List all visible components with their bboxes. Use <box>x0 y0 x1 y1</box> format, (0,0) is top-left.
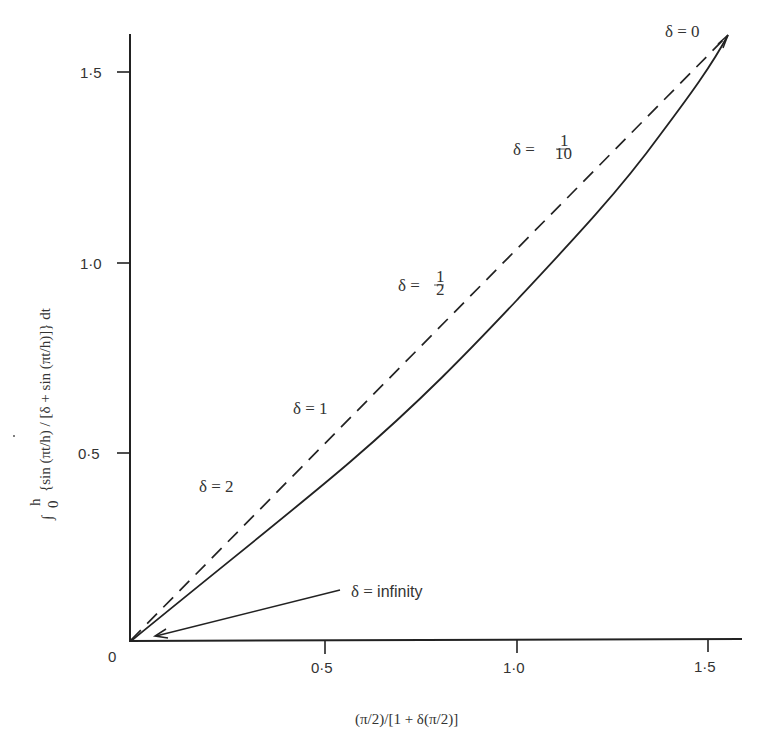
infinity-pointer-arrow <box>156 590 340 636</box>
arrowhead-end <box>718 35 728 48</box>
integral-lower-limit: 0 <box>45 501 61 509</box>
integral-upper-limit: h <box>27 498 43 506</box>
y-tick-label: 1·0 <box>80 255 102 272</box>
annotation-delta-infinity: δ = infinity <box>351 582 422 601</box>
y-axis-title: {sin (πt/h) / [δ + sin (πt/h)]} dt <box>37 307 54 492</box>
x-tick-label: 0·5 <box>311 659 333 676</box>
y-axis-title-group: ∫ h 0 {sin (πt/h) / [δ + sin (πt/h)]} dt <box>27 307 61 521</box>
chart-canvas: 1·5 1·0 0·5 0 0·5 1·0 1·5 δ = 0 δ = 1 10… <box>0 0 777 750</box>
x-tick-label: 1·0 <box>503 659 525 676</box>
y-tick-label: 1·5 <box>80 64 102 81</box>
annotation-delta-tenth-prefix: δ = <box>513 140 535 159</box>
origin-label: 0 <box>108 648 116 665</box>
speck <box>13 435 15 437</box>
dashed-reference-line <box>131 35 728 640</box>
annotation-delta-infinity-prefix: δ = <box>351 582 377 601</box>
x-tick-label: 1·5 <box>694 658 716 675</box>
x-axis-title: (π/2)/[1 + δ(π/2)] <box>355 711 458 728</box>
annotation-delta-1: δ = 1 <box>293 399 328 418</box>
annotation-delta-tenth-den: 10 <box>555 144 572 163</box>
x-axis <box>129 639 742 641</box>
annotation-delta-half: δ = <box>398 276 420 295</box>
annotation-delta-half-prefix: δ = <box>398 276 420 295</box>
annotation-delta-infinity-word: infinity <box>377 583 422 600</box>
integral-sign: ∫ <box>39 514 56 521</box>
annotation-delta-tenth: δ = <box>513 140 535 159</box>
annotation-delta-half-den: 2 <box>436 280 445 299</box>
annotation-delta-2: δ = 2 <box>199 477 234 496</box>
annotation-delta-0: δ = 0 <box>665 22 700 41</box>
y-tick-label: 0·5 <box>78 445 100 462</box>
